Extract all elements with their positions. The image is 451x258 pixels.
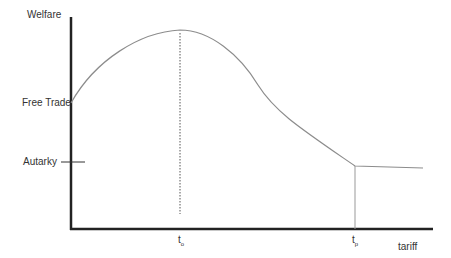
free-trade-label: Free Trade [22, 97, 71, 108]
autarky-label: Autarky [23, 156, 57, 167]
tick-subscript: o [181, 241, 184, 247]
y-axis-label: Welfare [27, 9, 61, 20]
welfare-curve [71, 30, 423, 168]
welfare-tariff-diagram [0, 0, 451, 258]
x-axis-label: tariff [398, 241, 417, 252]
tick-subscript: p [355, 241, 358, 247]
optimal-tariff-tick-label: to [178, 234, 184, 247]
prohibitive-tariff-tick-label: tp [352, 234, 358, 247]
